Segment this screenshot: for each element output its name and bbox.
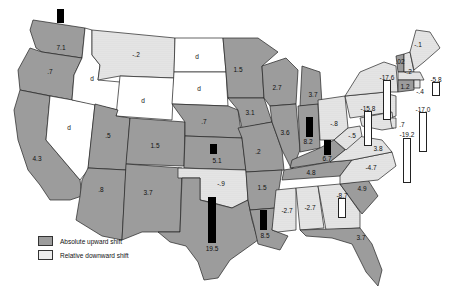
label-ga: -8.7 bbox=[336, 192, 347, 199]
label-sd: d bbox=[197, 85, 201, 92]
label-ut: .5 bbox=[105, 132, 110, 139]
label-co: 1.5 bbox=[150, 142, 159, 149]
label-wv: -.5 bbox=[348, 132, 356, 139]
label-ny: -17.6 bbox=[380, 74, 395, 81]
bar-tx bbox=[208, 197, 216, 243]
label-ky: 6.7 bbox=[322, 155, 331, 162]
label-sc: 4.9 bbox=[357, 185, 366, 192]
bar-nj bbox=[419, 112, 427, 152]
bar-ny bbox=[383, 80, 391, 120]
label-ar: 1.5 bbox=[257, 184, 266, 191]
label-ri: -.4 bbox=[416, 88, 424, 95]
bar-ky bbox=[324, 140, 331, 155]
label-al: -2.7 bbox=[304, 204, 315, 211]
state-fl bbox=[300, 228, 382, 286]
label-de: .7 bbox=[399, 121, 404, 128]
state-nm bbox=[122, 164, 182, 240]
bar-in bbox=[306, 117, 313, 137]
label-ms: -2.7 bbox=[281, 207, 292, 214]
label-vt: .02 bbox=[395, 58, 404, 65]
us-map-figure: 7.1 .7 4.3 d d -.2 d .5 .8 1.5 3.7 d d .… bbox=[0, 0, 453, 296]
state-nd bbox=[174, 38, 226, 72]
label-ct: 1.2 bbox=[400, 83, 409, 90]
label-wi: 2.7 bbox=[272, 84, 281, 91]
label-pa: -15.8 bbox=[361, 105, 376, 112]
bar-ga bbox=[338, 198, 346, 218]
legend-label-up: Absolute upward shift bbox=[60, 238, 122, 245]
legend-swatch-up bbox=[38, 236, 53, 246]
label-ok: -.9 bbox=[217, 180, 225, 187]
label-ne: .7 bbox=[201, 118, 206, 125]
label-nj: -17.0 bbox=[416, 106, 431, 113]
bar-md bbox=[403, 138, 411, 183]
bar-wa bbox=[57, 9, 64, 23]
label-mo: .2 bbox=[255, 148, 260, 155]
label-mt: -.2 bbox=[132, 51, 140, 58]
label-in: 8.2 bbox=[303, 138, 312, 145]
state-wi bbox=[262, 58, 298, 106]
bar-ks bbox=[210, 144, 217, 154]
bar-pa bbox=[364, 111, 372, 146]
state-me bbox=[410, 30, 440, 70]
label-ia: 3.1 bbox=[245, 109, 254, 116]
legend-item-up: Absolute upward shift bbox=[38, 234, 129, 248]
bar-la bbox=[260, 210, 267, 230]
label-wa: 7.1 bbox=[56, 44, 65, 51]
legend-item-down: Relative downward shift bbox=[38, 248, 129, 262]
label-tn: 4.8 bbox=[306, 169, 315, 176]
label-md: -19.2 bbox=[400, 131, 415, 138]
label-nv: d bbox=[67, 124, 71, 131]
label-fl: 3.7 bbox=[356, 234, 365, 241]
label-nm: 3.7 bbox=[143, 189, 152, 196]
label-nd: d bbox=[195, 53, 199, 60]
state-az bbox=[76, 168, 126, 240]
label-nh: -.2 bbox=[404, 68, 412, 75]
legend-swatch-down bbox=[38, 250, 53, 260]
label-oh: -.8 bbox=[330, 120, 338, 127]
label-ks: 5.1 bbox=[212, 157, 221, 164]
label-wy: d bbox=[141, 97, 145, 104]
label-or: .7 bbox=[47, 68, 52, 75]
label-la: 8.5 bbox=[260, 232, 269, 239]
bar-ma bbox=[432, 82, 440, 96]
label-ca: 4.3 bbox=[32, 155, 41, 162]
label-id: d bbox=[90, 75, 94, 82]
label-il: 3.6 bbox=[280, 129, 289, 136]
label-va: 3.8 bbox=[373, 145, 382, 152]
label-tx: 19.5 bbox=[206, 245, 219, 252]
legend-label-down: Relative downward shift bbox=[60, 252, 129, 259]
legend: Absolute upward shift Relative downward … bbox=[38, 234, 129, 262]
label-az: .8 bbox=[98, 186, 103, 193]
label-nc: -4.7 bbox=[365, 164, 376, 171]
label-me: -.1 bbox=[414, 41, 422, 48]
label-ma: -5.8 bbox=[430, 76, 441, 83]
label-mn: 1.5 bbox=[233, 66, 242, 73]
label-mi: 3.7 bbox=[308, 91, 317, 98]
